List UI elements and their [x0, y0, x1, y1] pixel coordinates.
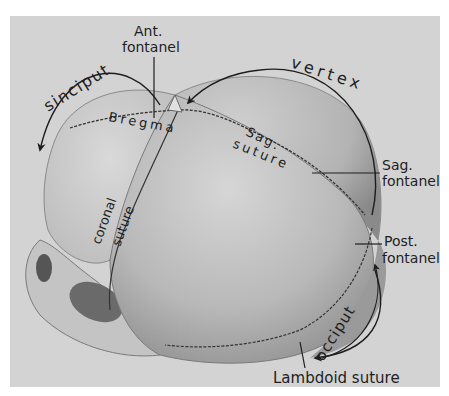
orbit — [36, 254, 52, 282]
lambdoid-suture-label: Lambdoid suture — [273, 369, 400, 387]
skull-diagram: Ant. fontanel sinciput vertex Bregma Sag… — [0, 0, 449, 396]
post-fontanel-label-2: fontanel — [382, 250, 440, 266]
sag-fontanel-label: Sag. — [382, 157, 413, 173]
sag-fontanel-label-2: fontanel — [382, 173, 440, 189]
ant-fontanel-label-2: fontanel — [122, 39, 180, 55]
ant-fontanel-label: Ant. — [134, 23, 162, 39]
post-fontanel-label: Post. — [384, 233, 418, 249]
